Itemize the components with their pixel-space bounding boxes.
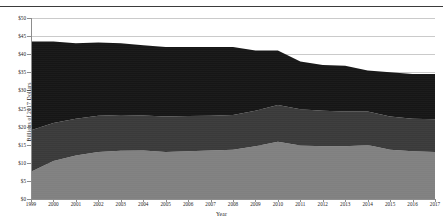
y-axis-tick-label: $45 — [0, 33, 26, 39]
stacked-area-chart: $0$5$10$15$20$25$30$35$40$45$50 19992000… — [0, 0, 443, 223]
y-axis-tick — [27, 181, 31, 182]
y-axis-tick — [27, 163, 31, 164]
x-axis-tick-label: 2015 — [385, 201, 395, 207]
x-axis-tick-label: 2000 — [48, 201, 58, 207]
y-axis-tick-label: $10 — [0, 160, 26, 166]
x-axis-tick-label: 2005 — [160, 201, 170, 207]
y-axis-tick-label: $15 — [0, 142, 26, 148]
x-axis-tick-label: 2009 — [250, 201, 260, 207]
x-axis-tick-label: 2004 — [138, 201, 148, 207]
y-axis-tick-label: $50 — [0, 15, 26, 21]
x-axis-tick-label: 2001 — [71, 201, 81, 207]
x-axis-title: Year — [0, 211, 443, 217]
y-axis-tick — [27, 145, 31, 146]
y-axis-tick — [27, 18, 31, 19]
y-axis-tick-label: $0 — [0, 196, 26, 202]
y-axis-tick — [27, 54, 31, 55]
y-axis-tick-label: $40 — [0, 51, 26, 57]
y-axis-tick-label: $30 — [0, 87, 26, 93]
plot-area — [31, 18, 435, 199]
y-axis-tick-label: $20 — [0, 124, 26, 130]
x-axis-tick-label: 2012 — [318, 201, 328, 207]
x-axis-tick-label: 2007 — [205, 201, 215, 207]
x-axis-tick-label: 1999 — [26, 201, 36, 207]
x-axis-tick-label: 2008 — [228, 201, 238, 207]
x-axis-tick-label: 2016 — [407, 201, 417, 207]
area-series-group — [31, 18, 435, 199]
y-axis-tick-label: $5 — [0, 178, 26, 184]
x-axis-tick-label: 2017 — [430, 201, 440, 207]
y-axis-tick — [27, 72, 31, 73]
x-axis-tick-label: 2014 — [362, 201, 372, 207]
y-axis-title: Billions of 2017 Dollars — [26, 82, 32, 141]
y-axis-tick — [27, 36, 31, 37]
x-axis-tick-label: 2006 — [183, 201, 193, 207]
x-axis-tick-label: 2010 — [273, 201, 283, 207]
header-divider-rule — [0, 6, 443, 7]
y-axis-tick-label: $25 — [0, 106, 26, 112]
x-axis-tick-label: 2002 — [93, 201, 103, 207]
x-axis-tick-label: 2003 — [116, 201, 126, 207]
truncated-title — [0, 0, 443, 2]
x-axis-tick-label: 2013 — [340, 201, 350, 207]
x-axis-tick-label: 2011 — [295, 201, 305, 207]
y-axis-tick-label: $35 — [0, 69, 26, 75]
